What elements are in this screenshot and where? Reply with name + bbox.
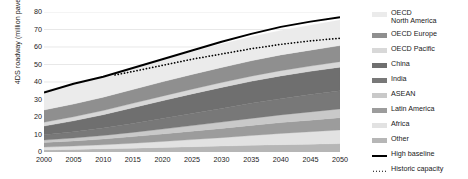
legend-item[interactable]: Historic capacity (372, 165, 468, 178)
legend-swatch-area-icon (372, 123, 387, 128)
legend-swatch-dotline-icon (372, 170, 387, 173)
legend-label: OECD North America (391, 9, 437, 26)
y-tick-label: 10 (18, 131, 42, 139)
legend-item[interactable]: ASEAN (372, 90, 468, 103)
x-tick-label: 2050 (332, 155, 348, 164)
stacked-area-svg (44, 12, 340, 152)
legend-swatch-area-icon (372, 138, 387, 143)
legend-label: Latin America (391, 105, 435, 113)
y-axis-tick-labels: 01020304050607080 (16, 12, 42, 152)
legend-item[interactable]: China (372, 60, 468, 73)
x-tick-label: 2010 (95, 155, 111, 164)
x-tick-label: 2045 (302, 155, 318, 164)
legend-swatch-area-icon (372, 48, 387, 53)
legend-item[interactable]: OECD Europe (372, 30, 468, 43)
legend-label: Historic capacity (391, 165, 443, 173)
legend-item[interactable]: OECD Pacific (372, 45, 468, 58)
y-tick-label: 40 (18, 78, 42, 86)
x-tick-label: 2040 (273, 155, 289, 164)
x-tick-label: 2000 (36, 155, 52, 164)
legend-item[interactable]: Latin America (372, 105, 468, 118)
x-tick-label: 2020 (154, 155, 170, 164)
x-tick-label: 2035 (243, 155, 259, 164)
legend-label: China (391, 60, 410, 68)
legend-item[interactable]: OECD North America (372, 9, 468, 28)
legend-swatch-area-icon (372, 63, 387, 68)
legend-item[interactable]: High baseline (372, 150, 468, 163)
plot-area (44, 12, 340, 152)
legend-label: Africa (391, 120, 409, 128)
chart-figure: 4DS roadway (million paved lane-km) 0102… (0, 0, 468, 179)
y-tick-label: 50 (18, 61, 42, 69)
chart-legend: OECD North AmericaOECD EuropeOECD Pacifi… (372, 9, 468, 179)
legend-label: OECD Europe (391, 30, 437, 38)
legend-item[interactable]: India (372, 75, 468, 88)
x-tick-label: 2015 (125, 155, 141, 164)
legend-swatch-area-icon (372, 33, 387, 38)
x-axis-tick-labels: 2000200520102015202020252030203520402045… (44, 155, 340, 167)
x-tick-label: 2030 (214, 155, 230, 164)
y-tick-label: 20 (18, 113, 42, 121)
legend-label: ASEAN (391, 90, 415, 98)
legend-swatch-line-icon (372, 155, 387, 158)
legend-label: India (391, 75, 407, 83)
legend-swatch-area-icon (372, 93, 387, 98)
legend-label: High baseline (391, 150, 435, 158)
y-tick-label: 30 (18, 96, 42, 104)
legend-swatch-area-icon (372, 78, 387, 83)
legend-swatch-area-icon (372, 12, 387, 17)
legend-item[interactable]: Other (372, 135, 468, 148)
legend-label: OECD Pacific (391, 45, 435, 53)
legend-swatch-area-icon (372, 108, 387, 113)
y-tick-label: 60 (18, 43, 42, 51)
y-tick-label: 80 (18, 8, 42, 16)
x-tick-label: 2005 (66, 155, 82, 164)
legend-label: Other (391, 135, 409, 143)
x-tick-label: 2025 (184, 155, 200, 164)
y-tick-label: 70 (18, 26, 42, 34)
legend-item[interactable]: Africa (372, 120, 468, 133)
